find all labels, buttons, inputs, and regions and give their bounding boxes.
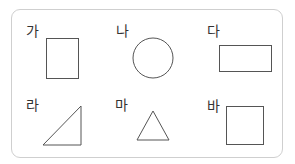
- shape-right-triangle: [43, 106, 81, 145]
- shape-circle: [133, 38, 173, 78]
- shape-isosceles-triangle: [137, 111, 169, 140]
- shape-rectangle-landscape: [220, 46, 272, 72]
- shapes-canvas: [0, 0, 295, 164]
- label-ba: 바: [207, 99, 220, 113]
- shape-square: [227, 107, 264, 145]
- label-ra: 라: [26, 98, 39, 112]
- label-ga: 가: [26, 24, 39, 38]
- label-da: 다: [207, 24, 220, 38]
- label-na: 나: [116, 24, 129, 38]
- label-ma: 마: [115, 98, 128, 112]
- shape-rectangle-portrait: [47, 39, 79, 79]
